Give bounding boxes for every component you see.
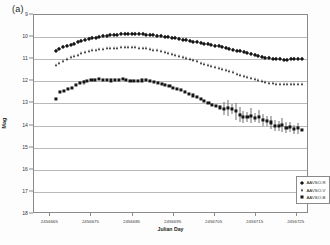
data-point bbox=[178, 54, 180, 57]
legend-item-label: AAVSO-R bbox=[307, 180, 326, 185]
data-point bbox=[88, 50, 90, 53]
data-point bbox=[160, 82, 163, 85]
data-point bbox=[211, 103, 214, 106]
data-point bbox=[246, 116, 249, 119]
data-point bbox=[254, 77, 256, 80]
data-point bbox=[73, 54, 75, 57]
triangle-marker-icon bbox=[299, 187, 305, 193]
y-axis-tick-label: 16 bbox=[22, 166, 28, 172]
data-point bbox=[277, 124, 280, 127]
data-point bbox=[265, 119, 268, 122]
data-point bbox=[215, 105, 218, 108]
data-point bbox=[172, 86, 175, 89]
legend-item: AAVSO-R bbox=[299, 179, 326, 186]
data-point bbox=[200, 61, 202, 64]
data-point bbox=[109, 46, 111, 49]
data-point bbox=[272, 82, 274, 85]
y-axis-tick-label: 11 bbox=[23, 55, 28, 61]
legend-item-label: AAVSO-V bbox=[307, 188, 326, 193]
data-point bbox=[174, 53, 176, 56]
data-point bbox=[214, 65, 216, 68]
data-point bbox=[148, 79, 151, 82]
data-point bbox=[228, 70, 230, 73]
data-point bbox=[221, 68, 223, 71]
y-axis-tick-label: 10 bbox=[22, 33, 28, 39]
data-point bbox=[129, 79, 132, 82]
y-axis-tick-label: 15 bbox=[22, 144, 28, 150]
data-point bbox=[78, 81, 81, 84]
data-point bbox=[230, 108, 233, 111]
data-point bbox=[199, 97, 202, 100]
data-point bbox=[67, 87, 70, 90]
data-point bbox=[250, 114, 253, 117]
data-point bbox=[145, 79, 148, 82]
legend-item: AAVSO-V bbox=[299, 186, 326, 193]
data-point bbox=[192, 59, 194, 62]
data-point bbox=[218, 66, 220, 69]
data-point bbox=[238, 113, 241, 116]
data-point bbox=[137, 79, 140, 82]
data-point bbox=[98, 47, 100, 50]
y-axis: 9101112131415161718 bbox=[0, 14, 33, 213]
data-point bbox=[149, 47, 151, 50]
data-point bbox=[293, 82, 295, 85]
data-point bbox=[261, 118, 264, 121]
x-axis-tick-label: 2456725 bbox=[287, 219, 304, 224]
legend-item-label: AAVSO-B bbox=[307, 195, 326, 200]
data-point bbox=[113, 46, 115, 49]
data-point bbox=[145, 47, 147, 50]
data-point bbox=[171, 52, 173, 55]
x-axis-tick-label: 2456715 bbox=[246, 219, 263, 224]
data-point bbox=[183, 90, 186, 93]
data-point bbox=[210, 64, 212, 67]
gridline bbox=[34, 126, 307, 127]
data-point bbox=[134, 46, 136, 49]
x-axis-tick-mark bbox=[173, 213, 174, 216]
data-point bbox=[124, 46, 126, 49]
data-point bbox=[138, 46, 140, 49]
data-point bbox=[152, 48, 154, 51]
x-axis-title: Julian Day bbox=[33, 226, 308, 232]
data-point bbox=[226, 107, 229, 110]
data-point bbox=[62, 59, 64, 62]
panel-label: (a) bbox=[12, 4, 24, 14]
x-axis-tick-label: 2456695 bbox=[164, 219, 181, 224]
data-point bbox=[62, 90, 65, 93]
data-point bbox=[179, 89, 182, 92]
data-point bbox=[196, 60, 198, 63]
data-point bbox=[91, 49, 93, 52]
data-point bbox=[269, 121, 272, 124]
data-point bbox=[283, 83, 285, 86]
data-point bbox=[239, 73, 241, 76]
x-axis-tick-label: 2456675 bbox=[82, 219, 99, 224]
data-point bbox=[95, 48, 97, 51]
data-point bbox=[250, 76, 252, 79]
data-point bbox=[82, 81, 85, 84]
data-point bbox=[285, 126, 288, 129]
data-point bbox=[164, 83, 167, 86]
data-point bbox=[273, 124, 276, 127]
figure-light-curve: Mag 9101112131415161718 AAVSO-RAAVSO-VAA… bbox=[0, 0, 330, 245]
data-point bbox=[168, 85, 171, 88]
data-point bbox=[133, 80, 136, 83]
data-point bbox=[106, 47, 108, 50]
data-point bbox=[86, 79, 89, 82]
data-point bbox=[55, 64, 57, 67]
data-point bbox=[187, 92, 190, 95]
x-axis-tick-label: 2456705 bbox=[205, 219, 222, 224]
data-point bbox=[90, 78, 93, 81]
data-point bbox=[127, 45, 129, 48]
x-axis-tick-label: 2456685 bbox=[123, 219, 140, 224]
x-axis-tick-mark bbox=[255, 213, 256, 216]
gridline bbox=[34, 148, 307, 149]
data-point bbox=[131, 45, 133, 48]
y-axis-tick-label: 9 bbox=[25, 11, 28, 17]
x-axis-tick-mark bbox=[49, 213, 50, 216]
y-axis-tick-label: 12 bbox=[22, 77, 28, 83]
data-point bbox=[232, 71, 234, 74]
data-point bbox=[236, 72, 238, 75]
data-point bbox=[242, 115, 245, 118]
y-axis-tick-label: 17 bbox=[22, 188, 28, 194]
data-point bbox=[297, 82, 299, 85]
data-point bbox=[257, 115, 260, 118]
